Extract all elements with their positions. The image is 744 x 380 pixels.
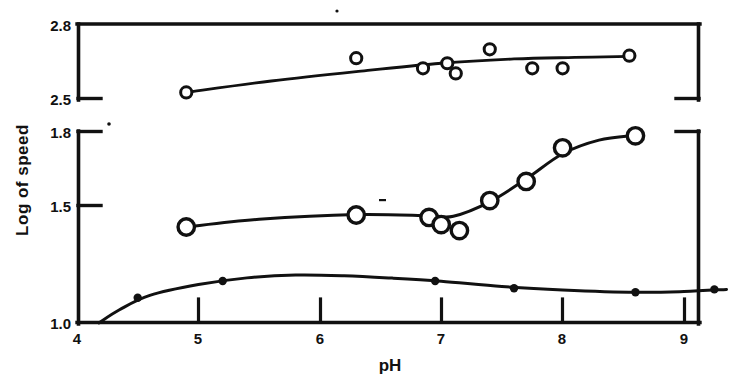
- data-point-lower-curve-3: [510, 284, 518, 292]
- data-point-middle-curve-0: [178, 219, 194, 235]
- x-tick-label-8: 8: [558, 330, 566, 347]
- data-point-upper-curve-2: [417, 63, 428, 74]
- data-point-upper-curve-7: [557, 63, 568, 74]
- y-axis-title: Log of speed: [13, 124, 32, 236]
- x-tick-label-4: 4: [73, 330, 82, 347]
- x-tick-labels: 4 5 6 7 8 9: [73, 330, 688, 347]
- data-point-upper-curve-1: [351, 53, 362, 64]
- x-axis-ticks: [199, 299, 685, 322]
- data-point-middle-curve-7: [554, 140, 570, 156]
- data-point-upper-curve-3: [442, 58, 453, 69]
- data-point-upper-curve-6: [527, 63, 538, 74]
- data-point-upper-curve-4: [450, 68, 461, 79]
- x-tick-label-6: 6: [316, 330, 324, 347]
- scan-artifacts: [107, 9, 386, 201]
- y-tick-label-1-0: 1.0: [50, 315, 71, 332]
- data-point-lower-curve-5: [710, 285, 718, 293]
- data-point-upper-curve-0: [181, 87, 192, 98]
- data-point-lower-curve-1: [218, 277, 226, 285]
- x-axis-title: pH: [379, 356, 402, 375]
- speck-top: [335, 9, 338, 12]
- x-tick-label-7: 7: [437, 330, 445, 347]
- data-point-upper-curve-5: [484, 44, 495, 55]
- data-point-middle-curve-6: [518, 173, 534, 189]
- data-point-middle-curve-4: [451, 222, 467, 238]
- data-point-middle-curve-5: [482, 192, 498, 208]
- data-point-lower-curve-0: [134, 294, 142, 302]
- x-tick-label-9: 9: [680, 330, 688, 347]
- data-series-layer: [99, 44, 727, 323]
- chart-figure: 4 5 6 7 8 9 2.8 2.5 1.8 1.5 1.0 pH Log o…: [0, 0, 744, 380]
- data-point-middle-curve-3: [433, 216, 449, 232]
- lower-panel-frame: [77, 131, 700, 324]
- data-point-upper-curve-8: [624, 50, 635, 61]
- lower-panel-data: [99, 128, 727, 323]
- data-point-middle-curve-1: [348, 207, 364, 223]
- y-tick-labels: 2.8 2.5 1.8 1.5 1.0: [50, 17, 71, 332]
- series-upper-curve: [181, 44, 635, 98]
- y-tick-label-2-5: 2.5: [50, 91, 71, 108]
- y-tick-label-1-8: 1.8: [50, 124, 71, 141]
- speck-tickmark: [379, 199, 386, 201]
- y-tick-label-1-5: 1.5: [50, 198, 71, 215]
- upper-panel-data: [181, 44, 635, 98]
- upper-panel-frame: [77, 24, 700, 100]
- y-tick-label-2-8: 2.8: [50, 17, 71, 34]
- data-point-lower-curve-2: [431, 277, 439, 285]
- lower-curve-trend-line: [99, 275, 727, 323]
- data-point-lower-curve-4: [631, 288, 639, 296]
- x-tick-label-5: 5: [194, 330, 202, 347]
- chart-canvas: 4 5 6 7 8 9 2.8 2.5 1.8 1.5 1.0 pH Log o…: [0, 0, 744, 380]
- data-point-middle-curve-8: [627, 128, 643, 144]
- speck-mid: [107, 122, 111, 126]
- series-lower-curve: [99, 275, 727, 323]
- series-middle-curve: [178, 128, 644, 239]
